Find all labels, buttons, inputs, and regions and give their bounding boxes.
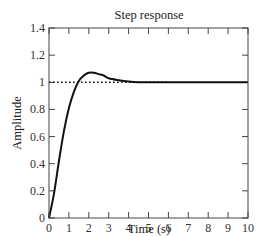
x-tick-label: 2 [86,221,92,235]
axis-ticks [49,28,248,218]
y-tick-label: 1 [39,75,45,89]
y-axis-label: Amplitude [10,96,24,150]
step-response-chart: Step response 00.20.40.60.811.21.4 01234… [0,0,266,237]
x-tick-label: 10 [242,221,254,235]
x-tick-label: 7 [185,221,191,235]
y-tick-label: 1.4 [30,21,45,35]
y-tick-label: 0.4 [30,157,45,171]
y-tick-label: 0.2 [30,184,45,198]
x-tick-label: 8 [205,221,211,235]
y-tick-label: 1.2 [30,48,45,62]
x-tick-label: 9 [225,221,231,235]
x-tick-label: 0 [46,221,52,235]
y-tick-label: 0.6 [30,130,45,144]
x-tick-label: 1 [66,221,72,235]
y-tick-labels: 00.20.40.60.811.21.4 [30,21,45,225]
x-axis-label: Time (s) [128,222,170,236]
chart-title: Step response [114,8,184,22]
x-tick-label: 3 [106,221,112,235]
y-tick-label: 0.8 [30,102,45,116]
plot-frame [49,28,248,218]
response-curve [49,73,248,218]
y-tick-label: 0 [39,211,45,225]
